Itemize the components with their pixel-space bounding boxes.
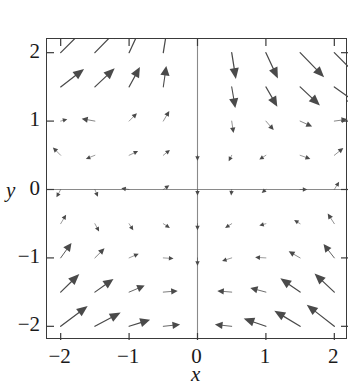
field-arrow (95, 279, 114, 292)
arrow-shaft (315, 311, 335, 326)
arrow-head (102, 279, 113, 289)
arrow-shaft (322, 280, 335, 292)
arrow-head (259, 155, 264, 159)
field-arrow (129, 39, 141, 53)
field-arrow (250, 286, 266, 293)
x-axis-label: x (191, 362, 200, 387)
arrow-head (328, 214, 333, 220)
arrow-shaft (300, 121, 308, 124)
field-arrow (163, 256, 173, 260)
arrow-head (268, 124, 273, 130)
field-arrow (217, 288, 231, 294)
field-arrow (129, 113, 137, 121)
field-arrow (274, 311, 300, 327)
arrow-shaft (95, 317, 112, 326)
y-tick-label: −2 (0, 312, 40, 337)
arrow-head (294, 220, 299, 224)
field-arrow (163, 322, 180, 329)
field-arrow (195, 224, 199, 231)
vector-field-figure: −2−1012−2−1012 x y (0, 0, 362, 392)
arrow-head (165, 224, 170, 228)
arrow-head (230, 127, 235, 133)
arrow-shaft (129, 39, 137, 53)
arrow-shaft (288, 284, 300, 292)
field-arrow (129, 285, 145, 292)
arrow-shaft (223, 291, 232, 292)
arrow-shaft (61, 281, 72, 292)
field-arrow (222, 257, 232, 261)
arrow-shaft (163, 74, 165, 87)
arrow-head (305, 155, 310, 159)
arrow-head (82, 117, 88, 123)
x-tick-label: 2 (313, 344, 353, 369)
arrow-shaft (334, 87, 348, 99)
field-arrow (61, 69, 84, 87)
field-arrow (95, 39, 119, 53)
arrow-shaft (95, 252, 101, 258)
arrow-head (338, 148, 344, 153)
arrow-head (63, 243, 71, 252)
x-tick-label: 1 (245, 344, 285, 369)
field-arrow (294, 220, 300, 224)
field-arrow (334, 87, 348, 104)
arrow-head (324, 244, 332, 253)
field-arrow (95, 313, 121, 327)
field-arrow (230, 121, 235, 133)
arrow-shaft (163, 115, 167, 121)
field-arrow (61, 306, 88, 326)
field-arrow (280, 278, 300, 292)
arrow-head (244, 318, 256, 327)
arrow-shaft (328, 250, 335, 258)
field-arrow (229, 155, 233, 161)
arrow-shaft (95, 39, 112, 53)
arrow-head (255, 255, 260, 260)
field-arrow (334, 53, 348, 81)
arrow-head (229, 98, 238, 108)
arrow-shaft (300, 87, 313, 99)
field-arrow (61, 274, 80, 292)
arrow-head (268, 95, 277, 106)
arrow-head (280, 278, 292, 288)
field-arrow (95, 248, 105, 258)
arrow-head (129, 225, 133, 230)
arrow-head (215, 322, 223, 329)
arrow-head (165, 150, 170, 155)
arrow-shaft (334, 53, 348, 74)
arrow-head (195, 261, 199, 266)
arrow-shaft (221, 325, 231, 326)
arrow-head (259, 222, 264, 226)
arrow-head (250, 286, 258, 293)
arrow-head (341, 117, 347, 123)
arrow-shaft (266, 87, 273, 99)
field-arrow (229, 190, 233, 196)
arrow-head (225, 224, 230, 228)
arrow-shaft (266, 121, 271, 127)
arrow-head (230, 67, 239, 79)
field-arrow (328, 214, 335, 224)
field-arrow (334, 117, 347, 123)
field-arrow (163, 288, 177, 294)
field-arrow (163, 224, 170, 228)
field-arrow (266, 87, 277, 107)
field-arrow (163, 111, 169, 121)
arrow-head (62, 215, 66, 220)
arrow-shaft (61, 218, 64, 224)
arrow-head (217, 288, 224, 294)
arrow-head (73, 69, 85, 79)
y-tick-label: 1 (0, 107, 40, 132)
field-arrow (82, 117, 95, 123)
arrow-head (274, 311, 286, 321)
y-tick-label: 2 (0, 39, 40, 64)
vector-field-canvas (47, 39, 348, 340)
field-arrow (129, 151, 138, 155)
arrow-shaft (334, 151, 340, 156)
field-arrow (289, 251, 300, 258)
field-arrow (300, 53, 324, 78)
field-arrow (334, 148, 343, 155)
arrow-head (131, 67, 140, 78)
arrow-head (335, 182, 339, 187)
arrow-head (289, 251, 296, 256)
arrow-head (229, 191, 233, 196)
arrow-shaft (61, 75, 76, 87)
arrow-shaft (95, 75, 108, 87)
